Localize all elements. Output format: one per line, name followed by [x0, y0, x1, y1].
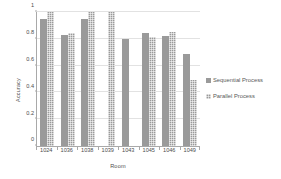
- bar-group: [180, 12, 200, 146]
- bar: [81, 19, 88, 146]
- x-axis-title: Room: [36, 163, 200, 169]
- bar: [169, 32, 176, 146]
- bar: [190, 80, 197, 146]
- y-axis-tick-label: 0.8: [26, 30, 34, 36]
- x-axis-tick-label: 1036: [57, 148, 78, 154]
- bar-group: [159, 12, 179, 146]
- x-axis-tick-label: 1038: [77, 148, 98, 154]
- y-axis-tick-label: 0.2: [26, 111, 34, 117]
- bar: [149, 37, 156, 146]
- y-axis-tick-label: 1: [31, 4, 34, 10]
- bar-group: [119, 12, 139, 146]
- bar-group: [57, 12, 77, 146]
- x-axis-tick-label: 1024: [36, 148, 57, 154]
- legend-label: Sequential Process: [213, 78, 263, 84]
- x-axis-tick-label: 1046: [159, 148, 180, 154]
- x-axis-tick-label: 1039: [98, 148, 119, 154]
- bar: [142, 33, 149, 146]
- bar-chart: Accuracy 00.20.40.60.81 1024103610381039…: [0, 0, 281, 179]
- legend-swatch-icon: [206, 94, 211, 99]
- bar: [40, 19, 47, 146]
- y-axis-tick-label: 0.6: [26, 57, 34, 63]
- y-axis-title: Accuracy: [15, 78, 21, 102]
- plot-area: 00.20.40.60.81: [36, 12, 200, 147]
- bar-group: [98, 12, 118, 146]
- chart-legend: Sequential ProcessParallel Process: [206, 78, 263, 100]
- legend-item[interactable]: Parallel Process: [206, 94, 263, 100]
- legend-swatch-icon: [206, 78, 211, 83]
- x-axis-ticks: 10241036103810391043104510461049: [36, 148, 200, 154]
- legend-item[interactable]: Sequential Process: [206, 78, 263, 84]
- bar: [162, 36, 169, 146]
- x-axis-tick-label: 1043: [118, 148, 139, 154]
- legend-label: Parallel Process: [213, 94, 255, 100]
- bar: [88, 12, 95, 146]
- x-axis-tick-label: 1049: [180, 148, 201, 154]
- bar: [47, 12, 54, 146]
- y-axis-tick-label: 0.4: [26, 84, 34, 90]
- bar-groups: [37, 12, 200, 146]
- bar: [183, 54, 190, 146]
- bar: [61, 35, 68, 146]
- bar: [68, 33, 75, 146]
- x-axis-tick-label: 1045: [139, 148, 160, 154]
- bar-group: [78, 12, 98, 146]
- bar-group: [139, 12, 159, 146]
- bar: [108, 12, 115, 146]
- bar-group: [37, 12, 57, 146]
- bar: [122, 39, 129, 146]
- y-axis-tick-label: 0: [31, 138, 34, 144]
